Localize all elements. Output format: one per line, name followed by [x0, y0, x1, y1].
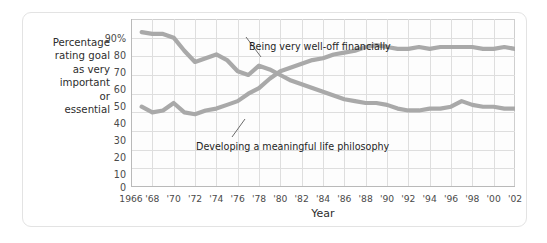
x-tick-label: '92: [401, 194, 415, 203]
y-tick-label: 70: [96, 68, 126, 78]
y-tick-label: 50: [96, 102, 126, 112]
y-tick-label: 80: [96, 51, 126, 61]
x-tick-label: '90: [380, 194, 394, 203]
x-tick-label: '96: [444, 194, 458, 203]
x-tick-label: '78: [252, 194, 266, 203]
x-tick-label: 1966: [119, 194, 142, 203]
x-tick-label: '86: [337, 194, 351, 203]
y-tick-label: 60: [96, 85, 126, 95]
y-tick-label: 0: [96, 183, 126, 193]
x-axis-title: Year: [131, 207, 515, 220]
x-tick-label: '02: [508, 194, 522, 203]
x-tick-label: '98: [465, 194, 479, 203]
x-tick-label: '82: [295, 194, 309, 203]
x-tick-label: '84: [316, 194, 330, 203]
chart-figure: Percentage rating goal as very important…: [0, 0, 547, 243]
annotation-philosophy: Developing a meaningful life philosophy: [196, 141, 389, 152]
x-tick-label: '80: [273, 194, 287, 203]
x-tick-label: '70: [167, 194, 181, 203]
leader-line-philosophy: [232, 119, 245, 137]
x-tick-label: '74: [209, 194, 223, 203]
y-tick-label: 40: [96, 119, 126, 129]
x-tick-label: '00: [487, 194, 501, 203]
y-tick-label: 30: [96, 136, 126, 146]
x-tick-label: '94: [423, 194, 437, 203]
y-tick-label: 20: [96, 153, 126, 163]
x-tick-label: '88: [359, 194, 373, 203]
y-tick-label: 90%: [96, 34, 126, 44]
annotation-welloff: Being very well-off financially: [249, 41, 391, 52]
x-tick-label: '72: [188, 194, 202, 203]
y-tick-label: 10: [96, 170, 126, 180]
x-tick-label: '76: [231, 194, 245, 203]
x-tick-label: '68: [145, 194, 159, 203]
